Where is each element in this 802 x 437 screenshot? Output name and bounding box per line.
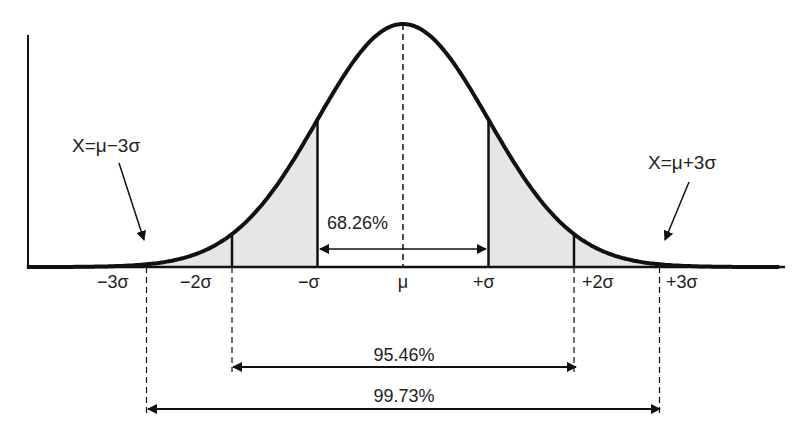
annotation-left-label: X=μ−3σ (72, 136, 140, 155)
tick-label-plus-3-sigma: +3σ (666, 273, 698, 291)
annotation-arrow-right (665, 182, 689, 240)
tick-label-plus-sigma: +σ (473, 273, 495, 291)
tick-label-minus-2-sigma: −2σ (180, 273, 212, 291)
shaded-tail-left (27, 120, 318, 267)
annotation-right-label: X=μ+3σ (648, 153, 716, 172)
tick-label-minus-3-sigma: −3σ (97, 273, 129, 291)
interval-label-68: 68.26% (327, 214, 388, 232)
interval-label-99: 99.73% (373, 387, 434, 405)
normal-distribution-chart (0, 0, 802, 437)
shaded-tail-right (489, 120, 780, 267)
tick-label-plus-2-sigma: +2σ (582, 273, 614, 291)
annotation-arrow-left (119, 163, 144, 240)
interval-label-95: 95.46% (373, 346, 434, 364)
tick-label-mu: μ (398, 273, 408, 291)
tick-label-minus-sigma: −σ (298, 273, 320, 291)
